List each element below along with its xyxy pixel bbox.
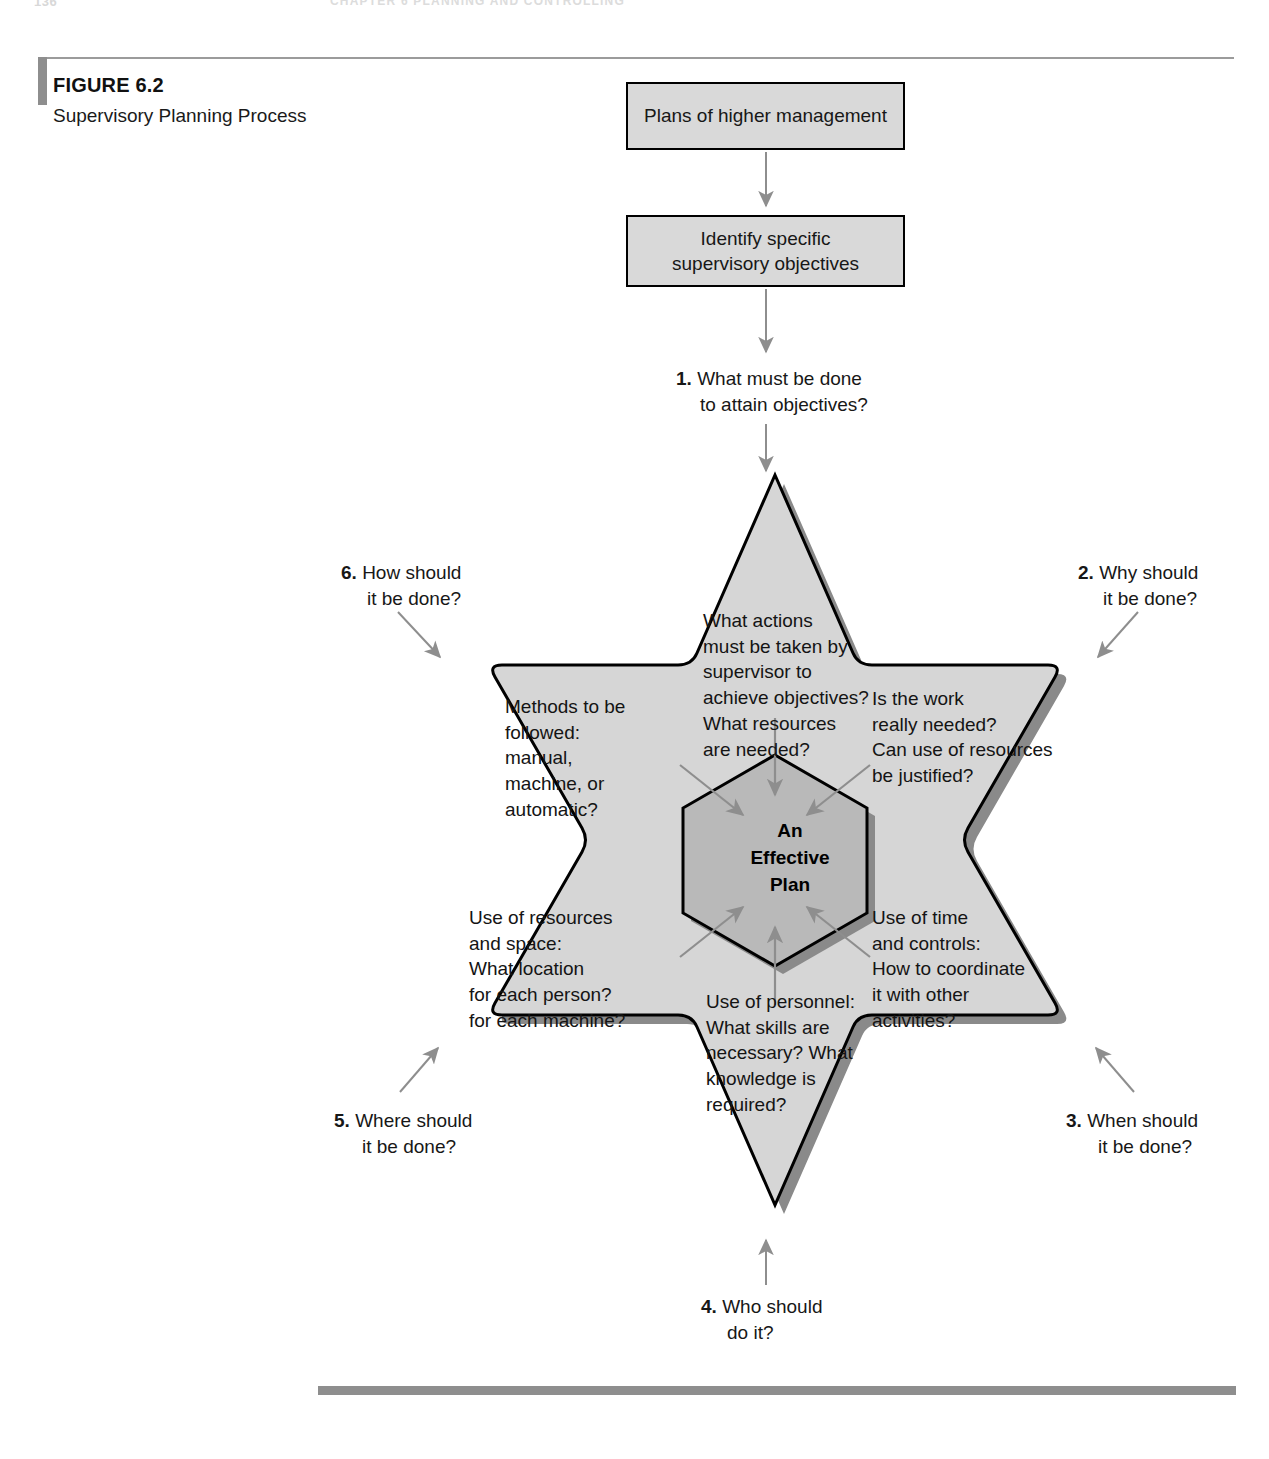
star-sector-text-why: Is the work really needed? Can use of re… [872, 686, 1053, 789]
flow-box-plans-of-higher-management: Plans of higher management [626, 82, 905, 150]
chapter-running-title: CHAPTER 6 PLANNING AND CONTROLLING [330, 0, 625, 8]
flow-box-identify-objectives: Identify specific supervisory objectives [626, 215, 905, 287]
figure-top-rule [38, 57, 1234, 59]
point-label-4: 4. Who should do it? [701, 1294, 822, 1346]
star-sector-text-who: Use of personnel: What skills are necess… [706, 989, 855, 1118]
point-1-line1: What must be done [697, 368, 862, 389]
figure-page: 136 CHAPTER 6 PLANNING AND CONTROLLING F… [0, 0, 1269, 1459]
point-label-1: 1. What must be done to attain objective… [676, 366, 868, 418]
caption-corner-mark [38, 57, 47, 105]
point-4-line1: Who should [722, 1296, 822, 1317]
star-sector-text-how: Methods to be followed: manual, machine,… [505, 694, 625, 823]
point-5-number: 5. [334, 1110, 350, 1131]
figure-number: FIGURE 6.2 [53, 74, 333, 97]
figure-title: Supervisory Planning Process [53, 103, 333, 130]
flow-box-plans-label: Plans of higher management [644, 103, 887, 128]
point-1-line2: to attain objectives? [676, 392, 868, 418]
point-6-number: 6. [341, 562, 357, 583]
flow-box-objectives-label: Identify specific supervisory objectives [672, 226, 859, 276]
point-4-line2: do it? [701, 1320, 822, 1346]
star-sector-text-when: Use of time and controls: How to coordin… [872, 905, 1025, 1034]
point-1-number: 1. [676, 368, 692, 389]
star-sector-text-top: What actions must be taken by supervisor… [703, 608, 869, 762]
star-sector-text-where: Use of resources and space: What locatio… [469, 905, 625, 1034]
point-4-number: 4. [701, 1296, 717, 1317]
figure-caption: FIGURE 6.2 Supervisory Planning Process [53, 74, 333, 130]
page-folio: 136 [34, 0, 57, 9]
center-hexagon-label: An Effective Plan [728, 818, 852, 899]
figure-bottom-rule [318, 1386, 1236, 1395]
running-head: 136 CHAPTER 6 PLANNING AND CONTROLLING [0, 0, 1269, 16]
